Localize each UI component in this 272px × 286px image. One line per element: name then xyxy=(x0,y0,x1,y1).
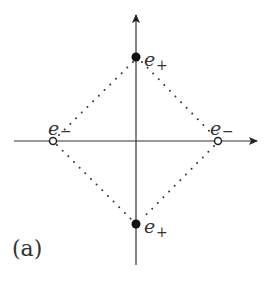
svg-text:+: + xyxy=(156,57,168,73)
svg-text:e: e xyxy=(48,117,59,139)
panel-label: (a) xyxy=(12,236,42,261)
svg-text:−: − xyxy=(60,123,72,139)
label-right: e − xyxy=(210,117,234,139)
point-top-filled xyxy=(132,53,141,62)
point-bottom-filled xyxy=(132,220,141,229)
svg-text:e: e xyxy=(144,48,155,70)
svg-text:e: e xyxy=(144,215,155,237)
edge-top-right xyxy=(142,62,214,136)
svg-text:e: e xyxy=(210,117,221,139)
label-top: e + xyxy=(144,48,168,73)
edge-bottom-right xyxy=(142,146,214,219)
label-left: e − xyxy=(48,117,72,139)
svg-text:+: + xyxy=(156,224,168,240)
label-bottom: e + xyxy=(144,215,168,240)
svg-text:−: − xyxy=(222,123,234,139)
edge-bottom-left xyxy=(57,145,131,219)
diagram-canvas: e + e + e − e − (a) xyxy=(0,0,272,286)
